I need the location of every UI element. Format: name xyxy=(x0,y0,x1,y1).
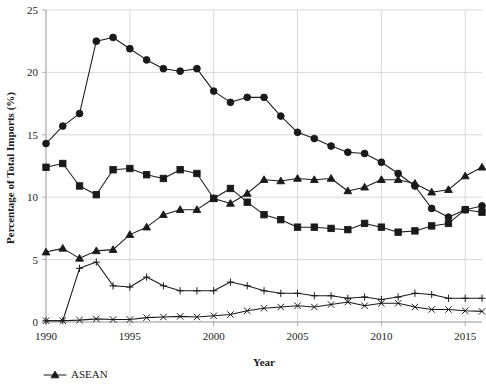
data-point-square xyxy=(93,192,99,198)
data-point-square xyxy=(127,165,133,171)
x-tick-label: 2000 xyxy=(203,330,226,342)
data-point-circle xyxy=(311,135,318,142)
x-tick-label: 1990 xyxy=(35,330,58,342)
data-point-circle xyxy=(261,94,268,101)
data-point-square xyxy=(412,228,418,234)
data-point-circle xyxy=(328,143,335,150)
x-tick-label: 1995 xyxy=(119,330,142,342)
data-point-circle xyxy=(93,38,100,45)
data-point-square xyxy=(462,206,468,212)
data-point-square xyxy=(160,175,166,181)
data-point-square xyxy=(345,226,351,232)
data-point-circle xyxy=(43,140,50,147)
data-point-square xyxy=(378,224,384,230)
legend-label: ASEAN xyxy=(71,368,108,380)
data-point-square xyxy=(43,164,49,170)
data-point-square xyxy=(361,220,367,226)
data-point-square xyxy=(244,199,250,205)
data-point-circle xyxy=(344,149,351,156)
y-tick-label: 20 xyxy=(27,66,39,78)
data-point-circle xyxy=(126,45,133,52)
x-axis-title: Year xyxy=(253,356,275,368)
data-point-square xyxy=(428,223,434,229)
y-tick-label: 25 xyxy=(27,4,39,16)
data-point-square xyxy=(311,224,317,230)
line-chart: 0510152025 199019952000200520102015 Perc… xyxy=(0,0,486,390)
data-point-circle xyxy=(160,65,167,72)
data-point-circle xyxy=(378,159,385,166)
x-tick-label: 2005 xyxy=(287,330,310,342)
y-axis-title: Percentage of Total Imports (%) xyxy=(4,92,17,244)
data-point-circle xyxy=(143,57,150,64)
data-point-square xyxy=(76,183,82,189)
data-point-square xyxy=(60,160,66,166)
data-point-circle xyxy=(194,65,201,72)
data-point-circle xyxy=(59,123,66,130)
data-point-circle xyxy=(361,150,368,157)
data-point-circle xyxy=(445,214,452,221)
data-point-circle xyxy=(479,203,486,210)
data-point-square xyxy=(278,216,284,222)
data-point-circle xyxy=(227,99,234,106)
y-tick-label: 15 xyxy=(27,129,39,141)
data-point-square xyxy=(328,225,334,231)
data-point-square xyxy=(395,229,401,235)
x-tick-label: 2010 xyxy=(370,330,393,342)
data-point-circle xyxy=(110,34,117,41)
y-tick-label: 10 xyxy=(27,191,39,203)
data-point-circle xyxy=(76,110,83,117)
data-point-circle xyxy=(277,113,284,120)
data-point-circle xyxy=(177,68,184,75)
data-point-square xyxy=(479,209,485,215)
data-point-circle xyxy=(244,94,251,101)
data-point-circle xyxy=(210,88,217,95)
data-point-square xyxy=(143,172,149,178)
data-point-square xyxy=(445,220,451,226)
data-point-square xyxy=(294,224,300,230)
data-point-square xyxy=(261,211,267,217)
y-tick-label: 5 xyxy=(33,254,39,266)
data-point-circle xyxy=(294,129,301,136)
data-point-circle xyxy=(428,205,435,212)
data-point-square xyxy=(194,170,200,176)
data-point-square xyxy=(110,167,116,173)
chart-background xyxy=(0,0,486,390)
chart-container: 0510152025 199019952000200520102015 Perc… xyxy=(0,0,486,390)
data-point-square xyxy=(177,167,183,173)
x-tick-label: 2015 xyxy=(454,330,477,342)
data-point-square xyxy=(227,185,233,191)
y-tick-label: 0 xyxy=(33,316,39,328)
